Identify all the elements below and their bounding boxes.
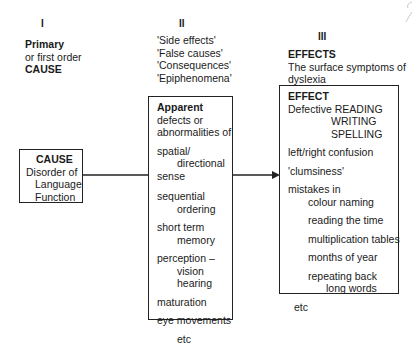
apparent-item-line: maturation [157,296,232,309]
cause-line: Disorder of [26,166,82,179]
apparent-item-line: ordering [157,203,232,216]
apparent-item: short term memory [157,221,232,246]
defective-item: WRITING [288,115,398,128]
apparent-item-line: eye movements [157,314,232,327]
apparent-item-line: etc [157,333,232,345]
apparent-item: maturation [157,296,232,309]
apparent-item-line: directional [157,157,232,170]
mistakes-item: long words [288,282,398,295]
cause-line: Function [26,191,82,204]
defective-item: READING [335,103,383,115]
apparent-item-line: memory [157,234,232,247]
effect-defective-row: Defective READING [288,103,398,116]
mistakes-label: mistakes in [288,183,398,196]
apparent-item-line: short term [157,221,232,234]
apparent-intro: abnormalities of [157,126,232,139]
apparent-item-line: sequential [157,190,232,203]
mistakes-item: repeating back [288,270,398,283]
apparent-item-line: perception – [157,252,232,265]
apparent-item-line: sense [157,170,232,183]
cause-line: Language [26,178,82,191]
defective-label: Defective [288,103,332,115]
apparent-intro: defects or [157,114,232,127]
apparent-box: Apparent defects or abnormalities of spa… [148,96,233,320]
defective-item: SPELLING [288,128,398,141]
corner-scribble [406,2,412,22]
mistakes-item: months of year [288,251,398,264]
effect-item: left/right confusion [288,146,398,159]
apparent-item-line: vision [157,265,232,278]
effect-item: 'clumsiness' [288,165,398,178]
cause-title: CAUSE [26,153,82,166]
apparent-item: spatial/ directional sense [157,145,232,183]
mistakes-item: reading the time [288,214,398,227]
apparent-item: sequential ordering [157,190,232,215]
effect-box: EFFECT Defective READING WRITING SPELLIN… [279,85,399,294]
effect-title: EFFECT [288,90,398,103]
apparent-title: Apparent [157,101,232,114]
apparent-item-line: hearing [157,277,232,290]
apparent-item: etc [157,333,232,345]
mistakes-item: colour naming [288,196,398,209]
effect-etc: etc [288,301,398,314]
mistakes-item: multiplication tables [288,233,398,246]
apparent-item-line: spatial/ [157,145,232,158]
cause-box: CAUSE Disorder of Language Function [19,149,83,203]
apparent-item: eye movements [157,314,232,327]
apparent-item: perception – vision hearing [157,252,232,290]
